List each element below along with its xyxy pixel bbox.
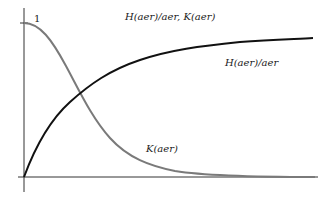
h-curve-label: H(aer)/aer — [224, 57, 279, 68]
y-tick-label: 1 — [34, 13, 40, 24]
chart: 1 H(aer)/aer, K(aer) H(aer)/aer K(aer) — [0, 0, 332, 202]
k-curve-label: K(aer) — [145, 143, 178, 154]
chart-title: H(aer)/aer, K(aer) — [124, 11, 216, 22]
